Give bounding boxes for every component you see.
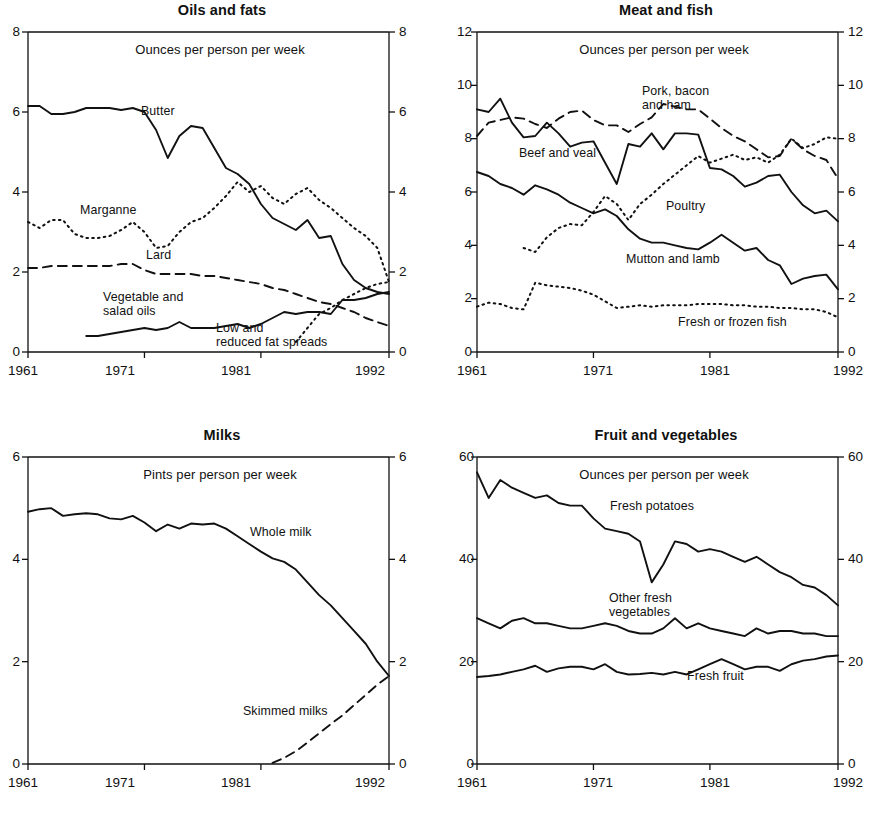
- series-line: [477, 618, 838, 636]
- series-line: [477, 472, 838, 605]
- series-line: [477, 99, 838, 222]
- series-line: [28, 264, 389, 326]
- chart-canvas: [444, 0, 888, 412]
- series-line: [28, 182, 389, 282]
- chart-panel-milks: Milks Pints per person per week 6 4 2 0 …: [0, 412, 444, 823]
- series-line: [28, 508, 389, 676]
- figure-grid: Oils and fats Ounces per person per week…: [0, 0, 888, 823]
- chart-panel-oils-and-fats: Oils and fats Ounces per person per week…: [0, 0, 444, 412]
- chart-canvas: [0, 412, 444, 823]
- series-line: [477, 656, 838, 677]
- series-line: [477, 172, 838, 289]
- chart-panel-fruit-and-vegetables: Fruit and vegetables Ounces per person p…: [444, 412, 888, 823]
- chart-canvas: [444, 412, 888, 823]
- chart-canvas: [0, 0, 444, 412]
- series-line: [524, 137, 838, 252]
- series-line: [477, 283, 838, 318]
- chart-panel-meat-and-fish: Meat and fish Ounces per person per week…: [444, 0, 888, 412]
- series-line: [273, 676, 389, 763]
